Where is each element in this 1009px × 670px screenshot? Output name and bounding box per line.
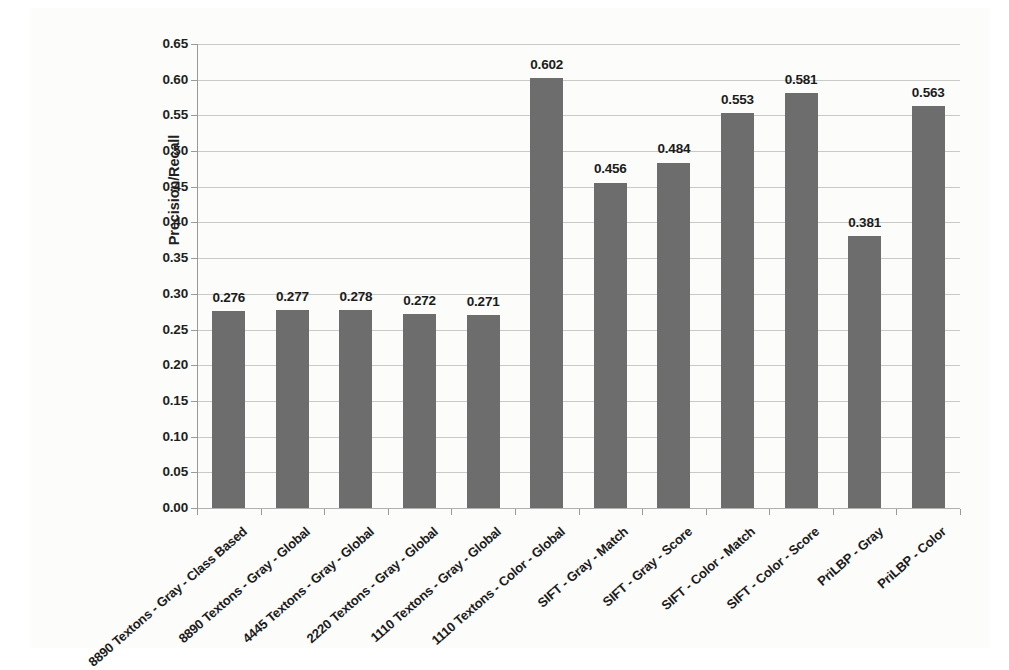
y-tick-label: 0.35 — [140, 250, 188, 265]
bar — [848, 236, 881, 508]
bar-value-label: 0.563 — [898, 85, 958, 100]
bar-value-label: 0.602 — [517, 57, 577, 72]
gridline — [197, 472, 960, 473]
x-tick-mark — [896, 509, 897, 515]
y-tick-label: 0.15 — [140, 393, 188, 408]
gridline — [197, 151, 960, 152]
gridline — [197, 330, 960, 331]
x-tick-mark — [769, 509, 770, 515]
gridline — [197, 437, 960, 438]
gridline — [197, 115, 960, 116]
bar — [467, 315, 500, 508]
y-axis-line — [197, 44, 198, 509]
x-tick-mark — [261, 509, 262, 515]
x-tick-mark — [642, 509, 643, 515]
bar-value-label: 0.456 — [580, 161, 640, 176]
bar — [912, 106, 945, 508]
x-tick-mark — [706, 509, 707, 515]
x-tick-mark — [388, 509, 389, 515]
y-tick-label: 0.50 — [140, 143, 188, 158]
bar-value-label: 0.553 — [707, 92, 767, 107]
bar-value-label: 0.484 — [644, 141, 704, 156]
x-tick-mark — [833, 509, 834, 515]
bar-value-label: 0.381 — [835, 215, 895, 230]
y-tick-label: 0.55 — [140, 107, 188, 122]
y-tick-label: 0.20 — [140, 357, 188, 372]
x-tick-mark — [515, 509, 516, 515]
x-tick-mark — [197, 509, 198, 515]
bar — [339, 310, 372, 508]
gridline — [197, 508, 960, 509]
bar-value-label: 0.276 — [199, 290, 259, 305]
bar — [721, 113, 754, 508]
bar — [212, 311, 245, 508]
y-tick-label: 0.30 — [140, 286, 188, 301]
bar — [594, 183, 627, 509]
gridline — [197, 44, 960, 45]
gridline — [197, 80, 960, 81]
y-tick-label: 0.10 — [140, 429, 188, 444]
bar-value-label: 0.272 — [390, 293, 450, 308]
gridline — [197, 258, 960, 259]
plot-area — [197, 44, 960, 508]
x-tick-mark — [451, 509, 452, 515]
bar — [276, 310, 309, 508]
y-tick-label: 0.05 — [140, 464, 188, 479]
bar — [657, 163, 690, 509]
y-tick-label: 0.45 — [140, 179, 188, 194]
x-tick-mark — [579, 509, 580, 515]
y-tick-label: 0.00 — [140, 500, 188, 515]
bar — [785, 93, 818, 508]
bar-value-label: 0.277 — [262, 289, 322, 304]
y-tick-label: 0.25 — [140, 322, 188, 337]
gridline — [197, 401, 960, 402]
bar-value-label: 0.278 — [326, 289, 386, 304]
y-tick-label: 0.40 — [140, 214, 188, 229]
gridline — [197, 187, 960, 188]
bar — [403, 314, 436, 508]
bar — [530, 78, 563, 508]
bar-value-label: 0.581 — [771, 72, 831, 87]
y-tick-label: 0.60 — [140, 72, 188, 87]
x-tick-mark — [960, 509, 961, 515]
gridline — [197, 365, 960, 366]
bar-value-label: 0.271 — [453, 294, 513, 309]
y-tick-label: 0.65 — [140, 36, 188, 51]
x-tick-mark — [324, 509, 325, 515]
